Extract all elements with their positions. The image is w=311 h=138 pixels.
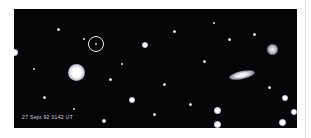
faint-star-n [33, 68, 35, 70]
faint-star-b [173, 30, 176, 33]
faint-star-m [153, 113, 156, 116]
ccd-grain-layer-c [14, 9, 297, 128]
star-lower-mid [129, 97, 135, 103]
faint-star-j [268, 86, 271, 89]
star-corner-right [291, 109, 297, 115]
bright-blob-upper-right [267, 44, 278, 55]
star-bottom-edge [102, 119, 106, 123]
faint-star-d [109, 78, 112, 81]
star-mid-upper [142, 42, 148, 48]
star-right-mid [282, 95, 288, 101]
star-lower-right-a [214, 107, 221, 114]
bright-star-left [68, 64, 85, 81]
faint-star-k [189, 103, 192, 106]
observation-timestamp: 27 Sept 92 0142 UT [22, 115, 73, 120]
faint-star-p [73, 108, 75, 110]
faint-star-e [253, 33, 256, 36]
star-bottom-right [279, 119, 286, 126]
faint-star-a [57, 28, 60, 31]
star-lower-right-b [214, 121, 221, 128]
star-left-edge [14, 49, 18, 56]
sky-image-plate: 27 Sept 92 0142 UT [14, 9, 297, 128]
figure-panel: 27 Sept 92 0142 UT [0, 0, 311, 138]
page-gutter-rule [305, 0, 306, 138]
marked-object-point [95, 43, 97, 45]
faint-star-o [213, 22, 215, 24]
faint-star-i [83, 38, 85, 40]
faint-star-l [121, 63, 123, 65]
faint-star-g [163, 83, 166, 86]
faint-star-h [228, 38, 231, 41]
faint-star-c [203, 60, 206, 63]
faint-star-f [43, 96, 46, 99]
